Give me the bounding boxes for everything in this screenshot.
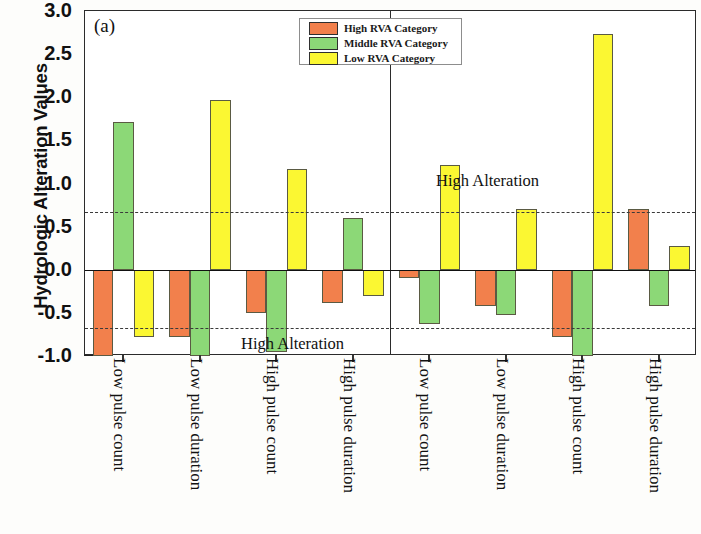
lower-threshold-line (85, 328, 695, 329)
bar (322, 270, 343, 303)
high-alteration-label-b: High Alteration (436, 171, 539, 191)
x-axis-label: Low pulse duration (492, 358, 512, 490)
bar (419, 270, 440, 324)
figure-root: Hydrologic Alteration Values 3.02.52.01.… (0, 0, 701, 534)
bar (210, 100, 231, 270)
legend-swatch (309, 37, 338, 50)
high-alteration-label-a: High Alteration (241, 334, 344, 354)
bar (572, 270, 593, 356)
bar (496, 270, 517, 315)
legend-label: Low RVA Category (344, 52, 435, 64)
legend-item: Low RVA Category (303, 51, 458, 65)
plot-area: (a) (b) High Alteration High Alteration … (84, 10, 696, 355)
bar (363, 270, 384, 296)
x-axis-label: High pulse count (262, 358, 282, 474)
legend-item: Middle RVA Category (303, 36, 458, 50)
y-tick-label: 0.0 (44, 257, 72, 280)
legend-item: High RVA Category (303, 21, 458, 35)
legend-swatch (309, 22, 338, 35)
x-axis-label: Low pulse duration (186, 358, 206, 490)
x-axis-label: Low pulse count (415, 358, 435, 471)
upper-threshold-line (85, 212, 695, 213)
legend-label: Middle RVA Category (344, 37, 448, 49)
y-tick-label: 2.0 (44, 85, 72, 108)
x-axis-labels: Low pulse countLow pulse durationHigh pu… (84, 358, 696, 534)
y-tick-label: 0.5 (44, 214, 72, 237)
bar (246, 270, 267, 313)
bar (628, 209, 649, 269)
bar (593, 34, 614, 269)
y-tick-label: -1.0 (38, 344, 72, 367)
bar (287, 169, 308, 270)
bar (190, 270, 211, 356)
y-axis-tick-labels: 3.02.52.01.51.00.50.0-0.5-1.0 (0, 10, 80, 355)
bar (669, 246, 690, 270)
bar (649, 270, 670, 306)
legend: High RVA CategoryMiddle RVA CategoryLow … (299, 18, 462, 65)
zero-line (85, 270, 695, 271)
y-tick-label: 3.0 (44, 0, 72, 22)
x-axis-label: High pulse duration (339, 358, 359, 493)
legend-swatch (309, 52, 338, 65)
y-tick-label: 1.0 (44, 171, 72, 194)
bar (516, 209, 537, 269)
panel-a-label: (a) (94, 15, 115, 37)
bar (93, 270, 114, 356)
x-axis-label: High pulse duration (645, 358, 665, 493)
bar (343, 218, 364, 270)
y-tick-label: 2.5 (44, 42, 72, 65)
bar (399, 270, 420, 279)
x-axis-label: High pulse count (568, 358, 588, 474)
bar (475, 270, 496, 306)
x-axis-label: Low pulse count (109, 358, 129, 471)
bar (113, 122, 134, 269)
y-tick-label: -0.5 (38, 300, 72, 323)
y-tick-label: 1.5 (44, 128, 72, 151)
legend-label: High RVA Category (344, 22, 438, 34)
